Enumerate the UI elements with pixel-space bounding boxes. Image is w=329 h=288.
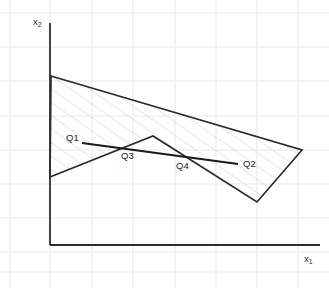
figure-canvas: x2 x1 Q1 Q2 Q3 Q4 — [0, 0, 329, 288]
annotation-label-q4: Q4 — [176, 160, 189, 171]
x-axis-label-text: x1 — [304, 253, 313, 264]
x-axis-label: x1 — [304, 253, 313, 264]
annotation-label-q3: Q3 — [121, 150, 134, 161]
annotation-label-q2: Q2 — [243, 158, 256, 169]
y-axis-label: x2 — [33, 16, 42, 27]
y-axis-label-text: x2 — [33, 16, 42, 27]
annotation-label-q1: Q1 — [66, 132, 79, 143]
plot-svg — [0, 0, 329, 288]
